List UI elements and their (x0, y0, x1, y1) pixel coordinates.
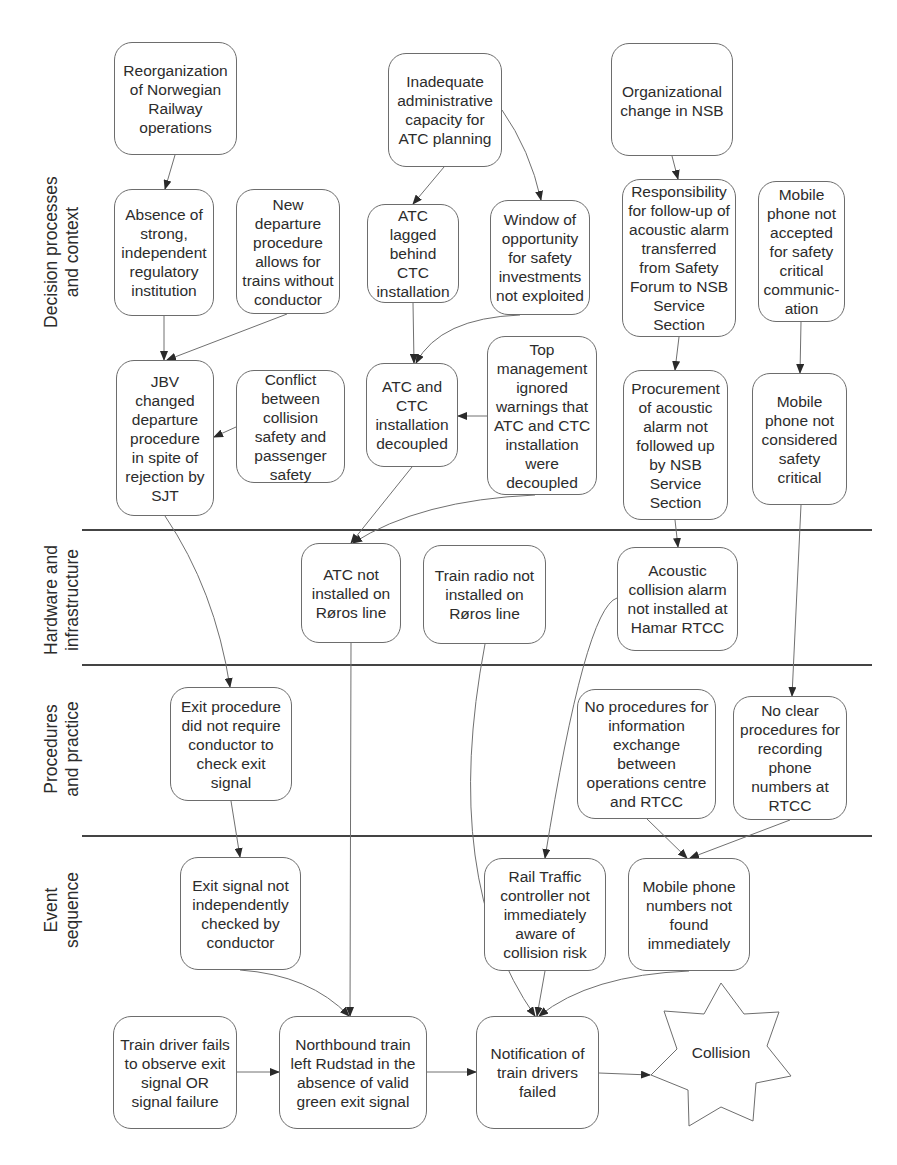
node-mobile-not-accepted: Mobile phone not accepted for safety cri… (758, 181, 845, 322)
node-notification-failed: Notification of train drivers failed (476, 1016, 599, 1129)
node-exit-signal-not-checked: Exit signal not independently checked by… (180, 857, 301, 970)
node-train-radio: Train radio not installed on Røros line (423, 545, 546, 644)
node-new-departure: New departure procedure allows for train… (236, 189, 340, 314)
node-procurement: Procurement of acoustic alarm not follow… (623, 370, 728, 520)
node-train-driver-fails: Train driver fails to observe exit signa… (113, 1016, 237, 1129)
node-atc-ctc-decoupled: ATC and CTC installation decoupled (366, 363, 458, 467)
node-reorganization: Reorganization of Norwegian Railway oper… (114, 42, 237, 155)
causal-diagram: Decision processes and context Hardware … (0, 0, 897, 1165)
node-mobile-not-considered: Mobile phone not considered safety criti… (752, 373, 847, 505)
node-no-procedures-info: No procedures for information exchange b… (577, 689, 716, 819)
node-no-clear-procedures: No clear procedures for recording phone … (733, 696, 847, 820)
node-absence-regulator: Absence of strong, independent regulator… (114, 189, 214, 316)
node-rail-traffic-controller: Rail Traffic controller not immediately … (484, 858, 606, 971)
node-conflict: Conflict between collision safety and pa… (236, 370, 345, 483)
node-organizational-change: Organizational change in NSB (611, 43, 733, 156)
node-northbound-train: Northbound train left Rudstad in the abs… (279, 1016, 427, 1129)
node-jbv-changed: JBV changed departure procedure in spite… (116, 360, 214, 516)
node-exit-procedure: Exit procedure did not require conductor… (170, 687, 292, 801)
node-responsibility: Responsibility for follow-up of acoustic… (622, 179, 736, 337)
node-atc-lagged: ATC lagged behind CTC installation (367, 204, 459, 303)
node-inadequate-capacity: Inadequate administrative capacity for A… (388, 53, 502, 167)
node-acoustic-alarm: Acoustic collision alarm not installed a… (617, 547, 738, 651)
node-top-management: Top management ignored warnings that ATC… (487, 336, 597, 495)
node-window-opportunity: Window of opportunity for safety investm… (490, 200, 590, 315)
node-mobile-numbers: Mobile phone numbers not found immediate… (628, 858, 750, 971)
node-atc-not-installed: ATC not installed on Røros line (301, 543, 401, 643)
node-collision: Collision (671, 1044, 771, 1062)
